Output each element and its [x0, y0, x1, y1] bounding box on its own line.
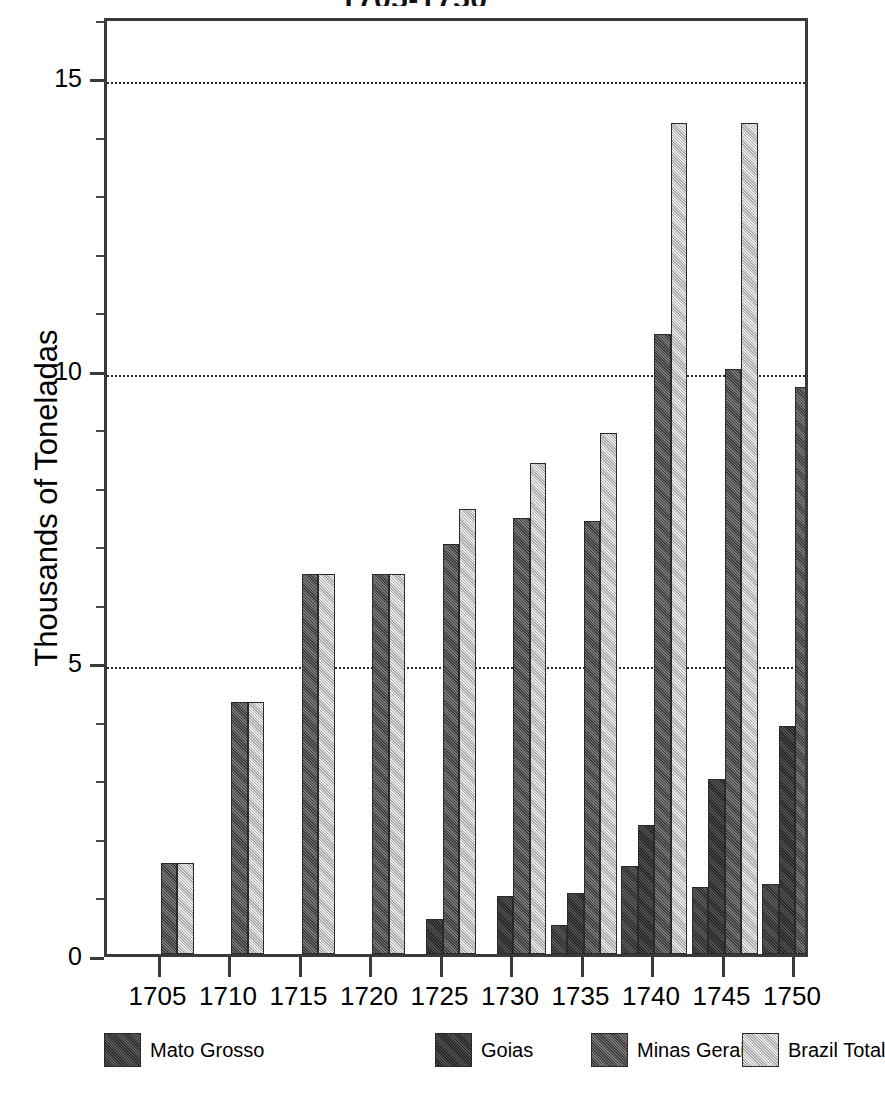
- legend-item-mato-grosso[interactable]: Mato Grosso: [104, 1030, 264, 1070]
- bar-1740-minas-gerais: [654, 334, 671, 954]
- y-tick-label-10: 10: [22, 359, 82, 384]
- plot-area: [104, 18, 808, 957]
- y-tick-minor-3: [96, 781, 104, 783]
- bar-1720-minas-gerais: [372, 574, 389, 954]
- y-tick-minor-16: [96, 21, 104, 23]
- bar-1745-brazil-total: [741, 123, 758, 954]
- y-tick-minor-1: [96, 898, 104, 900]
- legend-swatch-brazil-total: [742, 1033, 779, 1067]
- y-tick-0: [90, 957, 104, 960]
- x-tick-1740: [651, 957, 654, 977]
- x-tick-1710: [228, 957, 231, 977]
- bar-1705-brazil-total: [177, 863, 194, 954]
- y-tick-minor-12: [96, 255, 104, 257]
- y-tick-label-15: 15: [22, 66, 82, 91]
- legend-item-minas-gerais[interactable]: Minas Gerais: [591, 1030, 755, 1070]
- y-tick-label-5: 5: [22, 651, 82, 676]
- bar-1735-mato-grosso: [551, 925, 568, 954]
- y-tick-minor-14: [96, 138, 104, 140]
- legend-label: Goias: [481, 1040, 533, 1060]
- bar-1715-brazil-total: [318, 574, 335, 954]
- bar-1750-goias: [779, 726, 796, 954]
- legend-label: Brazil Total: [788, 1040, 885, 1060]
- bar-1725-minas-gerais: [443, 544, 460, 954]
- bar-1735-goias: [567, 893, 584, 954]
- x-tick-1715: [299, 957, 302, 977]
- x-tick-1730: [510, 957, 513, 977]
- y-tick-minor-9: [96, 430, 104, 432]
- legend-label: Mato Grosso: [150, 1040, 264, 1060]
- bar-1745-mato-grosso: [692, 887, 709, 954]
- bar-1705-minas-gerais: [161, 863, 178, 954]
- y-axis-title: Thousands of Toneladas: [29, 218, 65, 778]
- bar-1710-minas-gerais: [231, 702, 248, 954]
- bar-1710-brazil-total: [248, 702, 265, 954]
- y-tick-label-0: 0: [22, 944, 82, 969]
- legend-item-brazil-total[interactable]: Brazil Total: [742, 1030, 885, 1070]
- bar-1715-minas-gerais: [302, 574, 319, 954]
- bar-1750-minas-gerais: [795, 387, 805, 954]
- x-tick-label-1750: 1750: [747, 982, 837, 1011]
- y-tick-minor-4: [96, 723, 104, 725]
- bar-1735-minas-gerais: [584, 521, 601, 954]
- bar-1740-brazil-total: [671, 123, 688, 954]
- x-tick-1725: [440, 957, 443, 977]
- legend-item-goias[interactable]: Goias: [435, 1030, 533, 1070]
- legend-label: Minas Gerais: [637, 1040, 755, 1060]
- gridline-10: [107, 375, 805, 377]
- bar-1745-minas-gerais: [725, 369, 742, 954]
- y-tick-minor-2: [96, 840, 104, 842]
- bar-1740-mato-grosso: [621, 866, 638, 954]
- legend-swatch-mato-grosso: [104, 1033, 141, 1067]
- bar-1735-brazil-total: [600, 433, 617, 954]
- y-tick-minor-6: [96, 606, 104, 608]
- y-tick-minor-8: [96, 489, 104, 491]
- y-tick-5: [90, 664, 104, 667]
- bar-1730-goias: [497, 896, 514, 955]
- plot-inner: [107, 21, 805, 954]
- y-tick-minor-7: [96, 547, 104, 549]
- bar-1725-brazil-total: [459, 509, 476, 954]
- bar-1720-brazil-total: [389, 574, 406, 954]
- bar-1730-minas-gerais: [513, 518, 530, 954]
- x-tick-1735: [581, 957, 584, 977]
- y-tick-15: [90, 79, 104, 82]
- bar-1740-goias: [638, 825, 655, 954]
- chart-title: 1705-1750: [0, 0, 827, 6]
- gridline-15: [107, 82, 805, 84]
- legend-swatch-goias: [435, 1033, 472, 1067]
- bar-1725-goias: [426, 919, 443, 954]
- chart-legend: Mato GrossoGoiasMinas GeraisBrazil Total: [104, 1030, 808, 1076]
- y-tick-minor-13: [96, 196, 104, 198]
- bar-1730-brazil-total: [530, 463, 547, 954]
- x-tick-1750: [792, 957, 795, 977]
- y-tick-minor-11: [96, 313, 104, 315]
- legend-swatch-minas-gerais: [591, 1033, 628, 1067]
- y-tick-10: [90, 372, 104, 375]
- x-tick-1705: [158, 957, 161, 977]
- bar-1745-goias: [708, 779, 725, 955]
- bar-1750-mato-grosso: [762, 884, 779, 954]
- x-tick-1745: [722, 957, 725, 977]
- x-tick-1720: [369, 957, 372, 977]
